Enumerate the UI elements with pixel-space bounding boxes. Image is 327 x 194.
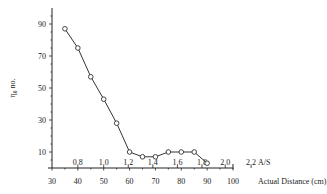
data-point-marker bbox=[76, 46, 81, 51]
y-tick-label: 50 bbox=[38, 84, 46, 93]
x-tick-label: 90 bbox=[203, 177, 211, 186]
y-tick-label: 70 bbox=[38, 52, 46, 61]
data-point-marker bbox=[153, 155, 158, 160]
axes bbox=[48, 8, 233, 169]
data-point-marker bbox=[127, 150, 132, 155]
data-point-marker bbox=[192, 150, 197, 155]
y-tick-label: 30 bbox=[38, 116, 46, 125]
data-series bbox=[63, 27, 210, 166]
data-point-marker bbox=[179, 150, 184, 155]
y-tick-label: 90 bbox=[38, 20, 46, 29]
x2-tick-label: 1.2 bbox=[123, 158, 133, 167]
x-tick-label: 30 bbox=[48, 177, 56, 186]
x-tick-label: 50 bbox=[100, 177, 108, 186]
x-tick-label: 80 bbox=[177, 177, 185, 186]
data-point-marker bbox=[166, 150, 171, 155]
y-axis-ticks: 1030507090 bbox=[38, 16, 52, 160]
secondary-x-axis-label: A/S bbox=[258, 158, 270, 167]
series-line bbox=[65, 29, 207, 163]
x-axis-label: Actual Distance (cm) bbox=[258, 177, 327, 186]
line-chart: 30405060708090100 0.81.01.21.41.61.82.02… bbox=[0, 0, 327, 194]
x2-tick-label: 2.2 bbox=[246, 158, 256, 167]
x-axis-ticks: 30405060708090100 bbox=[48, 168, 239, 186]
x2-tick-label: 2.0 bbox=[220, 158, 230, 167]
data-point-marker bbox=[114, 121, 119, 126]
data-point-marker bbox=[140, 155, 145, 160]
x2-tick-label: 1.6 bbox=[172, 158, 182, 167]
y-axis-label: η₀ no. bbox=[8, 79, 17, 98]
data-point-marker bbox=[205, 161, 210, 166]
data-point-marker bbox=[63, 27, 68, 32]
y-tick-label: 10 bbox=[38, 148, 46, 157]
x2-tick-label: 0.8 bbox=[73, 158, 83, 167]
x-tick-label: 70 bbox=[151, 177, 159, 186]
x-tick-label: 100 bbox=[227, 177, 239, 186]
data-point-marker bbox=[101, 97, 106, 102]
x2-tick-label: 1.0 bbox=[99, 158, 109, 167]
x-tick-label: 40 bbox=[74, 177, 82, 186]
x-tick-label: 60 bbox=[126, 177, 134, 186]
data-point-marker bbox=[88, 75, 93, 80]
secondary-x-axis-ticks: 0.81.01.21.41.61.82.02.2 bbox=[73, 158, 256, 168]
